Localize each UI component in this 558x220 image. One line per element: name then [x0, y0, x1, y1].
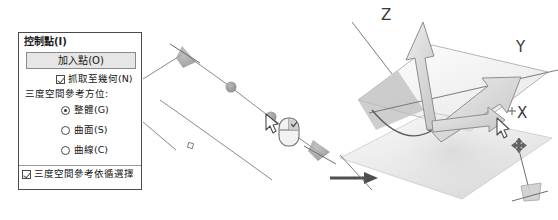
follow-selection-label: 三度空間參考依循選擇: [34, 169, 134, 179]
follow-selection-checkbox[interactable]: 三度空間參考依循選擇: [22, 169, 134, 179]
axis-label-z: Z: [381, 6, 391, 24]
radio-option-global[interactable]: 整體(G): [61, 105, 109, 115]
dialog-title: 控制點(I): [24, 36, 67, 47]
dialog-divider: [19, 165, 141, 166]
radio-dot-surface[interactable]: [61, 126, 70, 135]
screenshot-canvas: Z Y X 控制點(I) 加入點(O) 抓取至幾何(N) 三度空間參考方位: 整…: [0, 0, 558, 220]
axis-label-y: Y: [515, 38, 526, 56]
radio-option-surface[interactable]: 曲面(S): [61, 125, 107, 135]
radio-label-surface: 曲面(S): [74, 125, 107, 135]
right-arrow-icon: [330, 172, 378, 184]
control-handle-left: [170, 44, 200, 68]
mouse-right-click-icon: [279, 118, 299, 146]
three-d-gizmo-scene: Z Y X: [340, 6, 558, 201]
control-point-dialog: 控制點(I) 加入點(O) 抓取至幾何(N) 三度空間參考方位: 整體(G) 曲…: [18, 32, 142, 190]
snap-to-geometry-label: 抓取至幾何(N): [68, 74, 133, 84]
radio-label-curve: 曲線(C): [74, 145, 108, 155]
snap-to-geometry-checkbox[interactable]: 抓取至幾何(N): [56, 74, 133, 84]
radio-label-global: 整體(G): [74, 105, 109, 115]
reference-group-label: 三度空間參考方位:: [25, 89, 108, 99]
middle-scene: [160, 44, 378, 184]
control-handle-bottom-right: [512, 183, 548, 201]
callout-leader-lines: [143, 52, 186, 150]
control-point-middle: [226, 82, 237, 93]
radio-option-curve[interactable]: 曲線(C): [61, 145, 108, 155]
surface-edge-lower: [160, 100, 272, 180]
surface-marker: [187, 142, 193, 148]
add-point-button[interactable]: 加入點(O): [26, 52, 136, 69]
checkbox-box-snap[interactable]: [56, 75, 65, 84]
checkbox-box-follow[interactable]: [22, 170, 31, 179]
radio-dot-curve[interactable]: [61, 146, 70, 155]
axis-label-x: X: [517, 104, 527, 122]
radio-dot-global[interactable]: [61, 106, 70, 115]
control-handle-right: [304, 140, 336, 164]
control-curve-upper: [181, 52, 324, 156]
